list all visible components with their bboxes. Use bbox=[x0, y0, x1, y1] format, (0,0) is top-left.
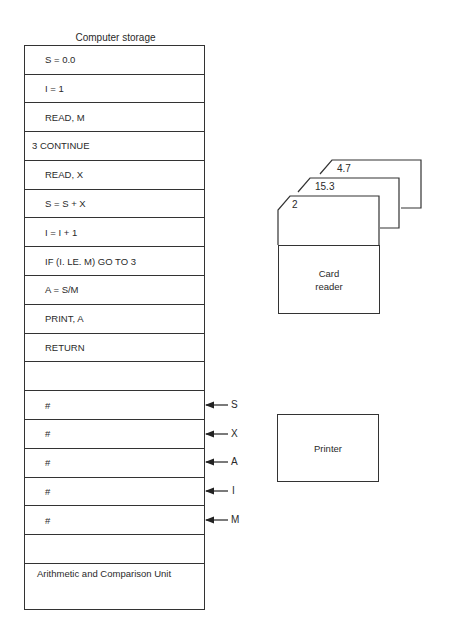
variable-label-x: X bbox=[231, 428, 238, 439]
printer-label: Printer bbox=[314, 442, 342, 455]
card-value-middle: 15.3 bbox=[315, 181, 334, 192]
variable-label-i: I bbox=[232, 485, 235, 496]
arrow-icon bbox=[206, 405, 228, 520]
punch-card-middle bbox=[298, 178, 399, 228]
diagram-lines bbox=[0, 0, 449, 637]
printer: Printer bbox=[277, 414, 379, 482]
card-reader: Card reader bbox=[278, 245, 380, 314]
punch-card-back bbox=[320, 160, 421, 208]
variable-label-s: S bbox=[231, 399, 238, 410]
card-reader-label-line1: Card bbox=[315, 267, 342, 280]
card-value-back: 4.7 bbox=[337, 163, 351, 174]
card-value-front: 2 bbox=[292, 199, 298, 210]
variable-label-a: A bbox=[231, 456, 238, 467]
card-reader-label-line2: reader bbox=[315, 280, 342, 293]
variable-label-m: M bbox=[231, 514, 239, 525]
